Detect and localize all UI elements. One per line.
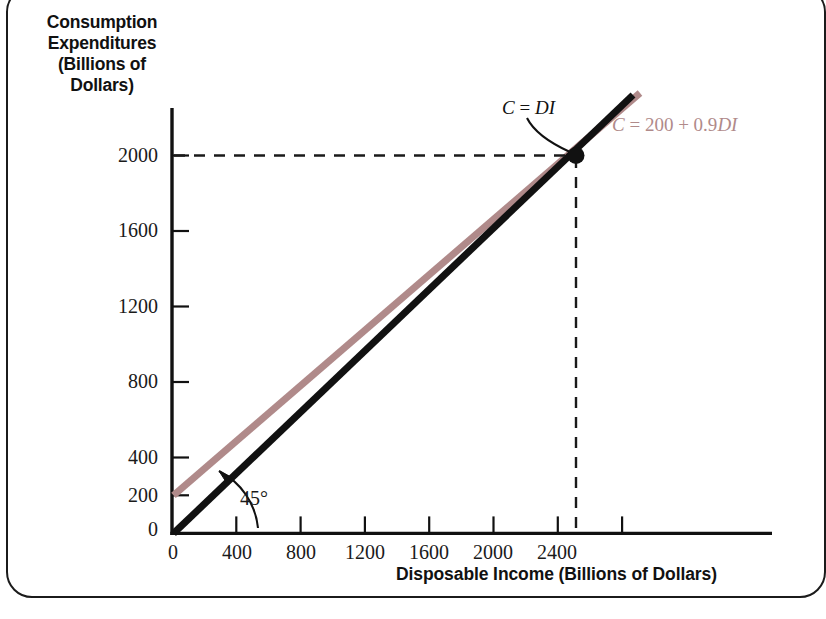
consumption-equation-label: C = 200 + 0.9DI (612, 114, 737, 136)
equation-variable-c: C (612, 114, 625, 135)
equation-variable-di: DI (717, 114, 737, 135)
x-tick-label-1200: 1200 (339, 541, 391, 564)
x-tick-label-0: 0 (147, 541, 199, 564)
forty-five-degree-line (174, 95, 634, 533)
c-equals-di-variable-di: DI (535, 97, 555, 118)
y-tick-label-2000: 2000 (88, 144, 158, 167)
equation-operator-text: = 200 + 0.9 (625, 114, 718, 135)
y-tick-label-0: 0 (88, 518, 158, 541)
y-tick-label-1200: 1200 (88, 295, 158, 318)
x-tick-label-800: 800 (275, 541, 327, 564)
x-axis-ticks (236, 516, 622, 533)
x-tick-label-1600: 1600 (403, 541, 455, 564)
y-tick-label-200: 200 (88, 484, 158, 507)
y-axis-ticks (172, 156, 189, 496)
c-equals-di-operator: = (515, 97, 535, 118)
y-tick-label-400: 400 (88, 446, 158, 469)
c-equals-di-leader-line (527, 118, 570, 152)
forty-five-degree-label: 45° (240, 487, 268, 510)
x-tick-label-400: 400 (211, 541, 263, 564)
y-tick-label-800: 800 (88, 370, 158, 393)
x-tick-label-2400: 2400 (531, 541, 583, 564)
y-tick-label-1600: 1600 (88, 219, 158, 242)
equilibrium-point-marker (568, 147, 585, 164)
c-equals-di-variable-c: C (502, 97, 515, 118)
c-equals-di-label: C = DI (502, 97, 555, 119)
x-tick-label-2000: 2000 (467, 541, 519, 564)
